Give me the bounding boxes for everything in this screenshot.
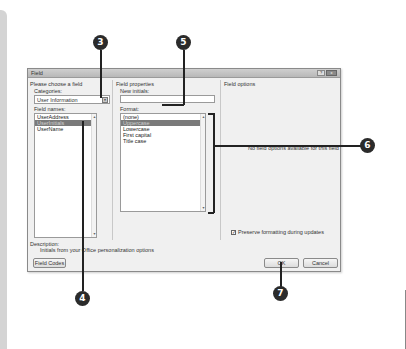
description-text: Initials from your Office personalizatio…	[40, 247, 154, 253]
callout-6-bracket	[213, 113, 215, 213]
callout-6-leader	[213, 145, 361, 147]
choose-field-group-label: Please choose a field	[30, 81, 82, 87]
column-divider	[220, 80, 221, 240]
close-button[interactable]: x	[326, 70, 337, 76]
field-names-list[interactable]: UserAddress UserInitials UserName ▲ ▼	[34, 113, 97, 238]
field-codes-button[interactable]: Field Codes	[33, 258, 66, 268]
new-initials-input[interactable]	[120, 95, 215, 103]
callout-6-bracket-bottom	[208, 212, 214, 214]
field-names-label: Field names:	[34, 106, 66, 112]
categories-value: User Information	[37, 97, 78, 103]
callout-5-leader-h	[162, 104, 184, 106]
help-button[interactable]: ?	[317, 70, 325, 76]
callout-6: 6	[360, 138, 375, 153]
field-names-scrollbar[interactable]: ▲ ▼	[91, 114, 96, 237]
format-scrollbar[interactable]: ▲ ▼	[200, 114, 205, 211]
field-options-group-label: Field options	[224, 81, 255, 87]
scroll-up-icon[interactable]: ▲	[201, 115, 206, 119]
callout-6-bracket-top	[208, 113, 214, 115]
cancel-button[interactable]: Cancel	[303, 258, 338, 268]
ok-button[interactable]: OK	[264, 258, 299, 268]
scroll-down-icon[interactable]: ▼	[201, 206, 206, 210]
scroll-down-icon[interactable]: ▼	[92, 232, 97, 236]
categories-dropdown[interactable]: User Information ▼	[34, 95, 110, 104]
preserve-formatting-checkbox[interactable]: ✓	[231, 230, 236, 235]
column-divider	[112, 80, 113, 240]
format-label: Format:	[120, 106, 139, 112]
list-item[interactable]: UserName	[35, 126, 96, 132]
callout-5: 5	[176, 35, 191, 50]
callout-3-leader	[100, 50, 102, 98]
callout-7: 7	[273, 286, 288, 301]
scroll-up-icon[interactable]: ▲	[92, 115, 97, 119]
preserve-formatting-label: Preserve formatting during updates	[238, 229, 324, 235]
field-properties-group-label: Field properties	[116, 81, 154, 87]
preserve-formatting-option[interactable]: ✓ Preserve formatting during updates	[231, 229, 324, 235]
list-item[interactable]: Title case	[121, 138, 205, 144]
callout-4-leader	[82, 121, 84, 291]
dialog-title: Field	[31, 70, 43, 76]
callout-5-leader	[183, 50, 185, 105]
callout-3: 3	[93, 35, 108, 50]
new-initials-label: New initials:	[120, 88, 149, 94]
callout-4: 4	[75, 291, 90, 306]
format-list[interactable]: (none) Uppercase Lowercase First capital…	[120, 113, 206, 212]
categories-label: Categories:	[34, 88, 62, 94]
chevron-down-icon[interactable]: ▼	[102, 97, 108, 103]
callout-7-leader	[280, 262, 282, 287]
page-margin-bar	[0, 10, 7, 349]
